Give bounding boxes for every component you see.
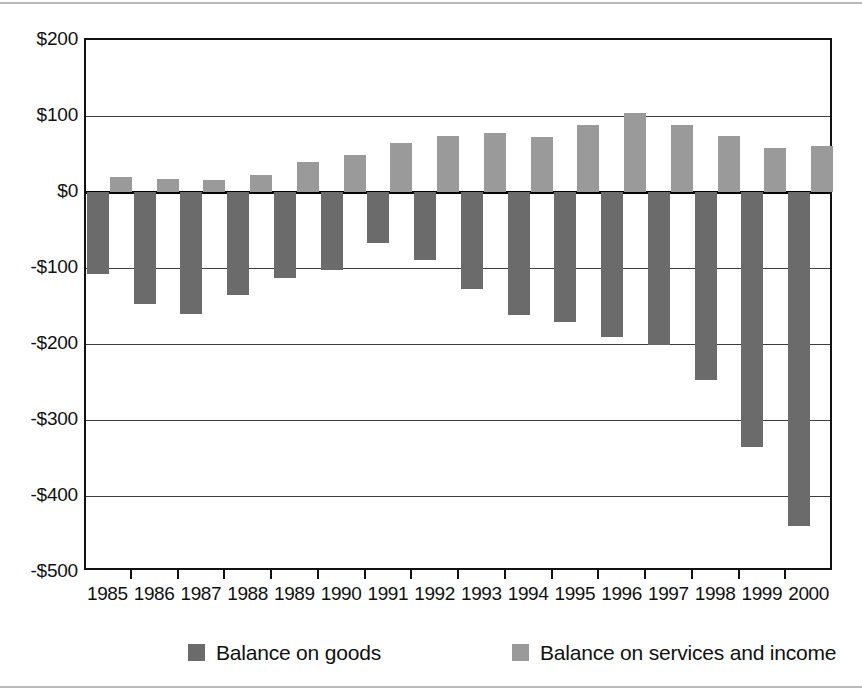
bar-services-1999 xyxy=(764,148,786,192)
x-axis-tick xyxy=(317,570,319,579)
x-axis-tick xyxy=(691,570,693,579)
bar-services-2000 xyxy=(811,146,833,192)
chart-legend: Balance on goodsBalance on services and … xyxy=(84,638,832,672)
gridline xyxy=(86,496,830,497)
x-axis-tick xyxy=(504,570,506,579)
y-axis-tick-label: -$100 xyxy=(4,257,78,276)
bar-goods-1990 xyxy=(321,192,343,270)
bar-goods-1998 xyxy=(695,192,717,380)
legend-label: Balance on goods xyxy=(216,642,381,663)
legend-item-goods[interactable]: Balance on goods xyxy=(188,638,381,666)
x-axis-tick xyxy=(410,570,412,579)
legend-item-services-and-income[interactable]: Balance on services and income xyxy=(512,638,836,666)
x-axis-tick xyxy=(270,570,272,579)
x-axis-ticks xyxy=(84,570,832,580)
x-axis-tick xyxy=(551,570,553,579)
x-axis-tick xyxy=(223,570,225,579)
x-axis-tick xyxy=(130,570,132,579)
y-axis-tick-label: $200 xyxy=(4,29,78,48)
y-axis-tick-label: -$300 xyxy=(4,409,78,428)
bar-goods-1992 xyxy=(414,192,436,260)
bar-services-1991 xyxy=(390,143,412,192)
bar-services-1988 xyxy=(250,175,272,192)
gridline xyxy=(86,116,830,117)
bar-goods-1995 xyxy=(554,192,576,322)
bar-services-1998 xyxy=(718,136,740,192)
x-axis-tick xyxy=(738,570,740,579)
x-axis-label-2000: 2000 xyxy=(779,584,839,603)
plot-area xyxy=(84,38,832,570)
y-axis-tick-label: $100 xyxy=(4,105,78,124)
bar-goods-1996 xyxy=(601,192,623,337)
bar-services-1993 xyxy=(484,133,506,192)
x-axis-tick xyxy=(457,570,459,579)
bar-goods-1989 xyxy=(274,192,296,278)
bar-services-1997 xyxy=(671,125,693,192)
page-rule-bottom xyxy=(0,686,862,688)
bar-goods-2000 xyxy=(788,192,810,526)
bar-services-1987 xyxy=(203,180,225,192)
gridline xyxy=(86,420,830,421)
x-axis-tick xyxy=(177,570,179,579)
bar-services-1986 xyxy=(157,179,179,192)
bar-services-1989 xyxy=(297,162,319,192)
page-rule-top xyxy=(0,2,862,4)
y-axis-tick-label: $0 xyxy=(4,181,78,200)
x-axis-tick xyxy=(644,570,646,579)
chart-figure: $200$100$0-$100-$200-$300-$400-$500 1985… xyxy=(0,0,862,697)
bar-services-1985 xyxy=(110,177,132,192)
bar-goods-1986 xyxy=(134,192,156,304)
bar-goods-1994 xyxy=(508,192,530,315)
bar-goods-1988 xyxy=(227,192,249,295)
bar-goods-1987 xyxy=(180,192,202,314)
bar-goods-1999 xyxy=(741,192,763,447)
y-axis: $200$100$0-$100-$200-$300-$400-$500 xyxy=(0,38,78,570)
bar-services-1992 xyxy=(437,136,459,192)
y-axis-tick-label: -$500 xyxy=(4,561,78,580)
bar-goods-1991 xyxy=(367,192,389,243)
bar-goods-1997 xyxy=(648,192,670,345)
legend-label: Balance on services and income xyxy=(540,642,836,663)
bar-goods-1985 xyxy=(87,192,109,274)
y-axis-tick-label: -$200 xyxy=(4,333,78,352)
x-axis-tick xyxy=(364,570,366,579)
x-axis-tick xyxy=(597,570,599,579)
legend-swatch-icon xyxy=(512,644,529,661)
legend-swatch-icon xyxy=(188,644,205,661)
bar-services-1994 xyxy=(531,137,553,192)
bar-services-1996 xyxy=(624,113,646,192)
y-axis-tick-label: -$400 xyxy=(4,485,78,504)
bar-services-1995 xyxy=(577,125,599,192)
bar-services-1990 xyxy=(344,155,366,192)
x-axis-tick xyxy=(784,570,786,579)
bar-goods-1993 xyxy=(461,192,483,289)
x-axis-labels: 1985198619871988198919901991199219931994… xyxy=(84,584,832,610)
gridline xyxy=(86,344,830,345)
